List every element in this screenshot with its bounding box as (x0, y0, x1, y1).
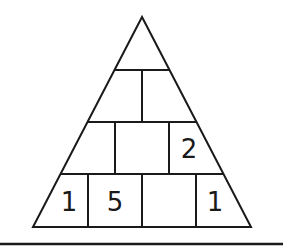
cell-r4-c4: 1 (207, 189, 224, 215)
cell-r4-c2: 5 (107, 189, 124, 215)
cell-r4-c1: 1 (61, 189, 78, 215)
pyramid-diagram (0, 0, 283, 250)
cell-r3-c3: 2 (181, 136, 198, 162)
